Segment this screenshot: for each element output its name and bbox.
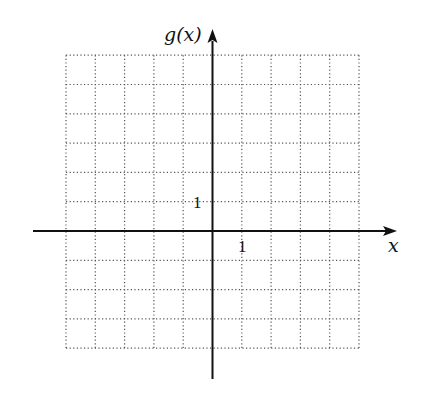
x-axis-label: x [388, 234, 399, 256]
y-axis-arrow-icon [208, 29, 218, 43]
y-axis-label: g(x) [164, 23, 202, 45]
axes [33, 29, 397, 379]
coordinate-grid-chart: g(x) x 1 1 [0, 0, 424, 402]
x-tick-label-1: 1 [238, 237, 247, 256]
y-tick-label-1: 1 [193, 193, 202, 212]
plot-area: g(x) x 1 1 [0, 0, 424, 402]
